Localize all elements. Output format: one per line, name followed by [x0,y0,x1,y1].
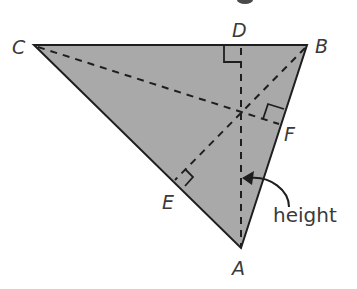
label-a: A [230,257,245,279]
cropped-glyph [237,0,253,4]
triangle-abc [34,45,307,248]
label-c: C [12,36,26,58]
label-b: B [315,35,328,57]
height-label: height [273,203,337,227]
label-d: D [232,19,247,41]
label-e: E [162,191,174,213]
label-f: F [284,123,296,145]
triangle-altitudes-diagram: C B D F E A height [0,0,357,289]
